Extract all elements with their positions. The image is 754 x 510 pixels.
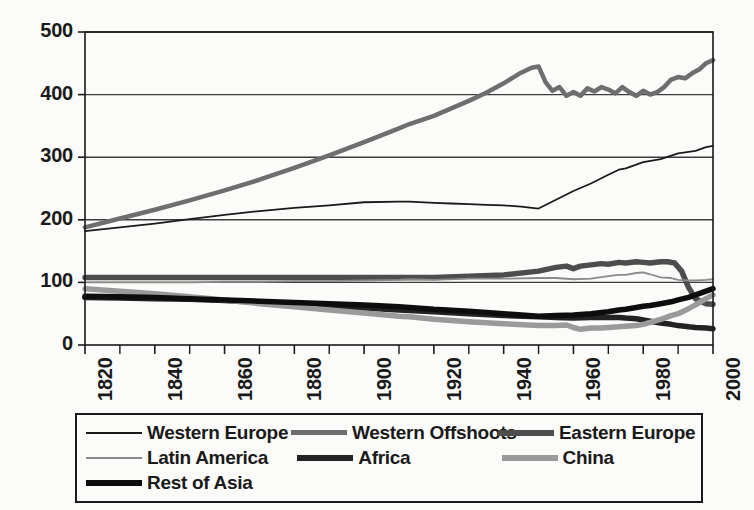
y-axis-tick-label: 100 <box>40 269 73 292</box>
legend-color-swatch-western-offshoots <box>291 430 347 435</box>
y-axis-tick-label: 200 <box>40 207 73 230</box>
legend-row: Western EuropeWestern OffshootsEastern E… <box>85 420 693 445</box>
y-axis-tick-label: 400 <box>40 82 73 105</box>
legend-color-swatch-western-europe <box>86 432 142 434</box>
legend-swatch-wrap <box>85 457 147 459</box>
x-axis-tick-label: 1820 <box>94 357 117 401</box>
series-line-western-europe <box>85 146 713 231</box>
legend-label-latin-america: Latin America <box>147 447 268 469</box>
legend-item-western-europe[interactable]: Western Europe <box>85 422 291 444</box>
chart-container: 0100200300400500 18201840186018801900192… <box>0 0 754 510</box>
legend-item-africa[interactable]: Africa <box>296 447 500 469</box>
legend-label-china: China <box>563 447 614 469</box>
x-axis-tick-label: 1860 <box>234 357 257 401</box>
legend-color-swatch-rest-of-asia <box>86 480 142 486</box>
x-axis-tick-label: 1980 <box>652 357 675 401</box>
x-axis-ticks <box>85 345 713 354</box>
legend-label-africa: Africa <box>358 447 410 469</box>
legend-swatch-wrap <box>85 480 147 486</box>
legend-swatch-wrap <box>85 432 147 434</box>
legend-row: Rest of Asia <box>85 470 693 495</box>
legend-color-swatch-china <box>502 455 558 461</box>
legend-label-eastern-europe: Eastern Europe <box>559 422 695 444</box>
legend-item-rest-of-asia[interactable]: Rest of Asia <box>85 472 299 494</box>
legend-label-western-offshoots: Western Offshoots <box>352 422 517 444</box>
series-line-africa <box>85 297 713 328</box>
series-lines <box>85 60 713 329</box>
legend-swatch-wrap <box>501 455 563 461</box>
x-axis-tick-label: 1960 <box>582 357 605 401</box>
legend-swatch-wrap <box>498 430 559 436</box>
legend-swatch-wrap <box>296 455 358 461</box>
legend-color-swatch-eastern-europe <box>498 430 554 436</box>
legend-color-swatch-africa <box>297 455 353 461</box>
chart-legend: Western EuropeWestern OffshootsEastern E… <box>75 413 703 503</box>
legend-item-eastern-europe[interactable]: Eastern Europe <box>498 422 693 444</box>
legend-label-western-europe: Western Europe <box>147 422 288 444</box>
x-axis-tick-label: 1920 <box>443 357 466 401</box>
x-axis-tick-label: 1880 <box>303 357 326 401</box>
legend-label-rest-of-asia: Rest of Asia <box>147 472 253 494</box>
legend-item-western-offshoots[interactable]: Western Offshoots <box>291 422 498 444</box>
y-axis-tick-label: 0 <box>62 332 73 355</box>
y-axis-tick-label: 500 <box>40 19 73 42</box>
x-axis-tick-label: 1900 <box>373 357 396 401</box>
x-axis-tick-label: 2000 <box>722 357 745 401</box>
legend-item-china[interactable]: China <box>501 447 693 469</box>
y-axis-tick-label: 300 <box>40 144 73 167</box>
x-axis-tick-label: 1940 <box>513 357 536 401</box>
legend-row: Latin AmericaAfricaChina <box>85 445 693 470</box>
legend-swatch-wrap <box>291 430 352 435</box>
x-axis-tick-label: 1840 <box>164 357 187 401</box>
legend-color-swatch-latin-america <box>86 457 142 459</box>
legend-item-latin-america[interactable]: Latin America <box>85 447 296 469</box>
gridlines <box>85 32 713 282</box>
